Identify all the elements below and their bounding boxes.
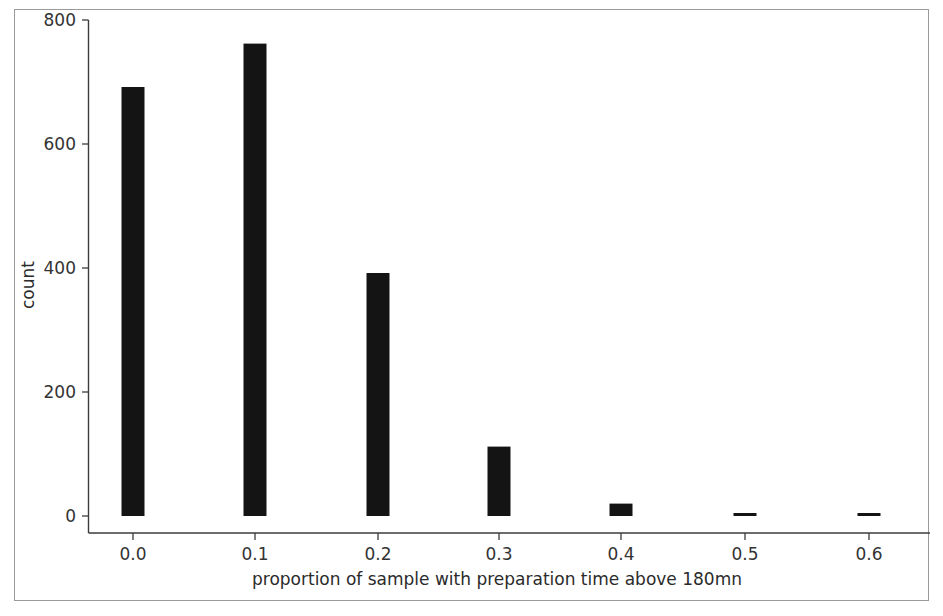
page-root: 800 600 400 200 0 count 0.0 0.1 0.2 (0, 0, 943, 616)
bar-0.1 (244, 44, 267, 516)
bar-series (122, 44, 881, 516)
y-tick-label-200: 200 (44, 382, 76, 402)
x-tick-label-2: 0.2 (364, 544, 391, 564)
x-tick-label-4: 0.4 (607, 544, 634, 564)
bar-0.0 (122, 87, 145, 516)
y-tick-label-800: 800 (44, 10, 76, 30)
bar-0.6 (858, 513, 881, 516)
x-tick-label-1: 0.1 (241, 544, 268, 564)
x-tick-label-3: 0.3 (485, 544, 512, 564)
x-axis-title: proportion of sample with preparation ti… (252, 569, 742, 589)
y-tick-label-0: 0 (65, 506, 76, 526)
x-tick-label-5: 0.5 (731, 544, 758, 564)
x-axis-ticks: 0.0 0.1 0.2 0.3 0.4 0.5 0.6 (119, 533, 882, 564)
y-tick-label-400: 400 (44, 258, 76, 278)
bar-0.2 (367, 273, 390, 516)
y-tick-label-600: 600 (44, 134, 76, 154)
histogram-plot: 800 600 400 200 0 count 0.0 0.1 0.2 (0, 0, 943, 616)
x-tick-label-0: 0.0 (119, 544, 146, 564)
y-axis-ticks: 800 600 400 200 0 (44, 10, 89, 526)
bar-0.3 (488, 447, 511, 516)
bar-0.4 (610, 504, 633, 516)
bar-0.5 (734, 513, 757, 516)
x-tick-label-6: 0.6 (855, 544, 882, 564)
chart-svg: 800 600 400 200 0 count 0.0 0.1 0.2 (0, 0, 943, 616)
y-axis-title: count (18, 261, 38, 309)
